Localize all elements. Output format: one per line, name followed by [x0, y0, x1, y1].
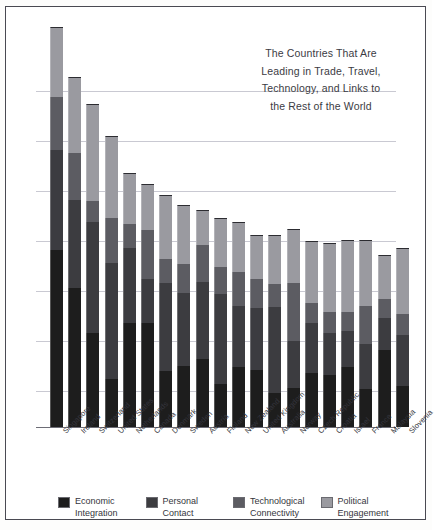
- bar-segment: [305, 323, 318, 373]
- bar-czech-republic[interactable]: [305, 241, 318, 427]
- bar-segment: [287, 283, 300, 341]
- bar-united-states[interactable]: [105, 136, 118, 427]
- bar-segment: [323, 243, 336, 312]
- bar-segment: [250, 235, 263, 279]
- bar-segment: [378, 255, 391, 299]
- bar-segment: [105, 136, 118, 218]
- bar-segment: [323, 333, 336, 375]
- bar-segment: [341, 312, 354, 331]
- chart-title-line: the Rest of the World: [235, 98, 407, 116]
- bar-segment: [232, 306, 245, 367]
- chart-title: The Countries That AreLeading in Trade, …: [235, 45, 407, 115]
- legend-swatch-icon: [146, 497, 158, 508]
- bar-france[interactable]: [359, 240, 372, 427]
- bar-united-kingdom[interactable]: [250, 235, 263, 427]
- bar-denmark[interactable]: [159, 195, 172, 427]
- bar-segment: [50, 150, 63, 250]
- legend-swatch-icon: [58, 497, 70, 508]
- bar-croatia[interactable]: [323, 243, 336, 427]
- bar-segment: [232, 272, 245, 306]
- legend-item[interactable]: Economic Integration: [58, 496, 136, 519]
- chart-legend: Economic IntegrationPersonal ContactTech…: [58, 496, 398, 519]
- bar-segment: [123, 248, 136, 323]
- bar-sweden[interactable]: [177, 205, 190, 427]
- bar-segment: [305, 303, 318, 323]
- bar-segment: [86, 222, 99, 333]
- bar-slovenia[interactable]: [396, 248, 409, 427]
- bar-segment: [214, 294, 227, 384]
- bar-segment: [68, 288, 81, 427]
- figure-frame: The Countries That AreLeading in Trade, …: [5, 6, 426, 520]
- bar-segment: [177, 205, 190, 264]
- bar-malaysia[interactable]: [378, 255, 391, 427]
- bar-segment: [268, 235, 281, 284]
- bar-segment: [68, 77, 81, 153]
- bar-segment: [396, 314, 409, 335]
- legend-item[interactable]: Political Engagement: [321, 496, 399, 519]
- bar-singapore[interactable]: [50, 27, 63, 427]
- bar-segment: [359, 344, 372, 389]
- bar-segment: [250, 308, 263, 370]
- bar-segment: [287, 341, 300, 388]
- bar-segment: [50, 27, 63, 97]
- bar-segment: [305, 241, 318, 303]
- bar-segment: [123, 224, 136, 248]
- legend-item[interactable]: Technological Connectivity: [233, 496, 311, 519]
- legend-swatch-icon: [321, 497, 333, 508]
- bar-segment: [214, 218, 227, 267]
- bar-segment: [359, 306, 372, 344]
- bar-segment: [177, 264, 190, 293]
- bar-segment: [68, 200, 81, 288]
- bar-segment: [250, 279, 263, 308]
- legend-label: Economic Integration: [75, 496, 136, 519]
- bar-segment: [50, 97, 63, 150]
- bar-segment: [159, 283, 172, 371]
- bar-segment: [378, 318, 391, 350]
- bar-segment: [196, 245, 209, 282]
- bar-segment: [268, 307, 281, 393]
- bar-segment: [396, 335, 409, 386]
- chart-title-line: Technology, and Links to: [235, 80, 407, 98]
- legend-label: Personal Contact: [163, 496, 224, 519]
- legend-label: Technological Connectivity: [250, 496, 311, 519]
- x-axis-labels: SingaporeIrelandSwitzerlandUnited States…: [36, 429, 426, 493]
- bar-segment: [323, 312, 336, 333]
- bar-segment: [86, 201, 99, 222]
- bar-segment: [341, 240, 354, 312]
- bar-segment: [196, 282, 209, 359]
- bar-canada[interactable]: [141, 184, 154, 427]
- chart-title-line: Leading in Trade, Travel,: [235, 63, 407, 81]
- bar-segment: [86, 104, 99, 201]
- bar-segment: [141, 184, 154, 230]
- bar-new-zealand[interactable]: [232, 222, 245, 427]
- bar-segment: [50, 250, 63, 427]
- bar-netherlands[interactable]: [123, 173, 136, 427]
- bar-segment: [123, 173, 136, 224]
- bar-segment: [214, 267, 227, 294]
- bar-segment: [68, 153, 81, 200]
- bar-finland[interactable]: [214, 218, 227, 427]
- bar-segment: [287, 229, 300, 283]
- bar-segment: [378, 299, 391, 318]
- chart-title-line: The Countries That Are: [235, 45, 407, 63]
- bar-segment: [196, 210, 209, 245]
- bar-segment: [341, 331, 354, 367]
- legend-swatch-icon: [233, 497, 245, 508]
- bar-segment: [141, 230, 154, 279]
- bar-austria[interactable]: [196, 210, 209, 427]
- bar-segment: [359, 240, 372, 306]
- bar-segment: [396, 248, 409, 314]
- legend-label: Political Engagement: [338, 496, 399, 519]
- bar-ireland[interactable]: [68, 77, 81, 427]
- bar-segment: [105, 263, 118, 379]
- bar-segment: [232, 222, 245, 272]
- bar-segment: [141, 279, 154, 323]
- bar-switzerland[interactable]: [86, 104, 99, 427]
- bar-segment: [159, 195, 172, 259]
- bar-segment: [177, 293, 190, 366]
- bar-segment: [105, 218, 118, 263]
- legend-item[interactable]: Personal Contact: [146, 496, 224, 519]
- bar-segment: [159, 259, 172, 283]
- bar-segment: [268, 284, 281, 307]
